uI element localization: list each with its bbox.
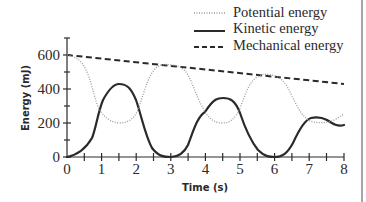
energy-chart: Potential energy Kinetic energy Mechanic… (0, 0, 366, 202)
y-axis-label: Energy (mJ) (20, 65, 31, 131)
legend: Potential energy Kinetic energy Mechanic… (194, 4, 344, 53)
x-tick-label: 2 (132, 161, 140, 177)
series-mechanical-energy (67, 55, 344, 84)
legend-label: Potential energy (233, 4, 328, 20)
legend-item-potential: Potential energy (194, 4, 328, 20)
x-tick-label: 3 (167, 161, 175, 177)
x-tick-label: 5 (236, 161, 244, 177)
plot-area (67, 55, 344, 157)
series-kinetic-energy (67, 84, 344, 157)
y-tick-label: 600 (38, 47, 61, 63)
x-tick-label: 8 (340, 161, 348, 177)
x-tick-label: 7 (305, 161, 313, 177)
x-tick-label: 6 (271, 161, 279, 177)
legend-label: Kinetic energy (233, 20, 319, 36)
legend-item-mechanical: Mechanical energy (194, 37, 344, 53)
y-tick-label: 200 (38, 115, 61, 131)
axes (63, 38, 344, 161)
legend-item-kinetic: Kinetic energy (194, 20, 319, 36)
x-tick-label: 1 (98, 161, 106, 177)
series-potential-energy (67, 55, 344, 123)
x-tick-label: 0 (63, 161, 71, 177)
legend-label: Mechanical energy (233, 37, 344, 53)
x-tick-label: 4 (202, 161, 210, 177)
x-axis-label: Time (s) (182, 182, 228, 193)
y-tick-label: 400 (38, 81, 61, 97)
y-tick-label: 0 (53, 149, 61, 165)
y-tick-labels: 0 200 400 600 (38, 47, 61, 165)
x-tick-labels: 0 1 2 3 4 5 6 7 8 (63, 161, 348, 177)
